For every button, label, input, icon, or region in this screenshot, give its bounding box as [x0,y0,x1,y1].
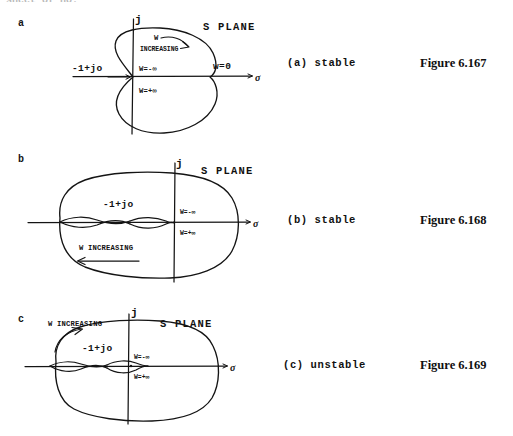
panel-b-real-axis-label: σ [253,218,258,229]
panel-b-nyquist-outer-curve [60,172,239,278]
panel-a-caption: (a) stable [287,57,356,69]
panel-a-critical-point-label: -1+jo [72,63,103,74]
panel-a-w-minus-infinity-label: W=-∞ [139,65,157,73]
panel-a-w-increasing-label-line2: INCREASING [140,46,178,53]
panel-b-w-increasing-label: W INCREASING [79,244,133,252]
panel-c-loop-upper-strand-2 [107,361,148,366]
panel-c-imaginary-axis [128,314,129,424]
panel-a-w-zero-label: w=0 [213,61,231,72]
panel-a-w-plus-infinity-label: W=+∞ [139,87,157,95]
panel-b-figure-label: Figure 6.168 [420,213,486,228]
figure-page: sheet of no. a S PLANE j σ -1+jo W INCRE… [0,0,513,436]
panel-c-loop-lower-strand-2 [107,366,148,373]
panel-a-figure-label: Figure 6.167 [420,56,486,71]
panel-c: c S PLANE j σ W INCREASING -1+jo W=-∞ [0,296,513,436]
panel-c-caption: (c) unstable [283,359,366,371]
panel-a-nyquist-curve [115,28,217,133]
panel-c-real-axis-label: σ [230,362,235,373]
panel-a: a S PLANE j σ -1+jo W INCREASING W=-∞ W=… [0,8,513,146]
panel-c-w-increasing-label: W INCREASING [48,320,102,328]
panel-b-critical-point-label: -1+jo [103,199,134,210]
panel-c-imaginary-axis-label: j [131,307,138,319]
panel-b-caption: (b) stable [287,214,356,226]
cropped-page-header: sheet of no. [6,0,78,2]
panel-c-encirclement-dot [130,365,132,367]
panel-b: b S PLANE j σ -1+jo W=-∞ W=+∞ W INCREASI… [0,146,513,291]
panel-b-w-minus-infinity-label: W=-∞ [180,209,195,216]
panel-c-nyquist-outer-curve [56,320,219,421]
panel-c-w-minus-infinity-label: W=-∞ [134,354,149,361]
panel-a-w-direction-arc [161,37,188,46]
panel-a-real-axis-label: σ [255,72,260,83]
panel-a-real-axis [73,76,252,77]
panel-b-imaginary-axis-label: j [176,158,183,170]
panel-b-w-plus-infinity-label: W=+∞ [180,230,195,237]
panel-c-w-plus-infinity-label: W=+∞ [134,374,149,381]
panel-c-critical-point-label: -1+jo [82,343,113,354]
panel-c-figure-label: Figure 6.169 [420,358,486,373]
panel-a-imaginary-axis-label: j [135,14,142,26]
panel-b-loop-lower-strand-2 [130,222,174,228]
panel-a-w-increasing-label-line1: W [154,34,159,42]
